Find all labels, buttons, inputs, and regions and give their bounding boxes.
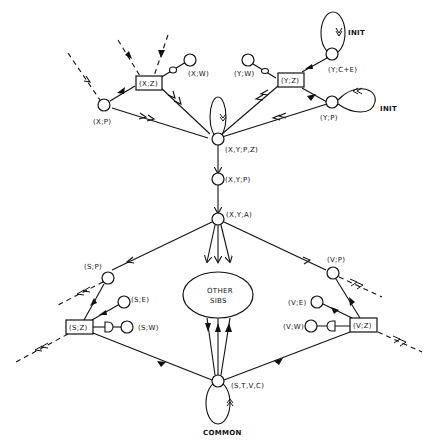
filled-arrow-icon (158, 50, 165, 58)
edge-xya-to-sibs-3 (221, 225, 230, 262)
label-other: OTHER (207, 287, 233, 295)
edge-ycpe-to-yz (302, 58, 327, 72)
double-arrow-icon (35, 343, 48, 351)
edge-xya-to-sp (112, 222, 212, 270)
label-vz: (V;Z) (353, 322, 372, 330)
node-sw (121, 321, 133, 333)
edge-xya-to-sibs-1 (207, 225, 215, 262)
double-arrow-icon (350, 279, 363, 289)
node-yp (326, 96, 338, 108)
relation-diagram: (X;P) (X;Z) (X;W) (Y;W) (Y;Z) (Y;C+E) IN… (0, 0, 434, 445)
label-yp: (Y;P) (320, 114, 338, 122)
filled-arrow-icon (205, 323, 211, 332)
dashed-edge-out-sz (16, 334, 68, 362)
node-xya (212, 213, 224, 225)
label-yw: (Y;W) (234, 70, 255, 78)
label-ve: (V;E) (288, 299, 307, 307)
loop-init-right (338, 89, 375, 112)
node-xw (184, 54, 196, 66)
label-xz: (X;Z) (139, 80, 158, 88)
edge-xp-to-xypz (112, 108, 208, 138)
node-stvc (212, 375, 224, 387)
dashed-edge-out-sp (58, 282, 103, 305)
node-sp (102, 272, 114, 284)
node-xypz (212, 133, 224, 145)
edge-yz-to-xypz (222, 86, 278, 134)
double-arrow-icon (77, 287, 90, 295)
label-xypz: (X,Y;P,Z) (225, 146, 258, 154)
dashed-edge-out-vz (378, 332, 422, 352)
label-vw: (V;W) (283, 323, 304, 331)
edge-xya-to-vp (224, 222, 326, 270)
filled-arrow-icon (99, 310, 107, 315)
filled-arrow-icon (117, 87, 125, 94)
label-ycpe: (Y;C+E) (328, 66, 357, 74)
filled-arrow-icon (157, 361, 166, 367)
inhibitor-icon (262, 69, 269, 74)
label-xp: (X;P) (93, 118, 111, 126)
node-yw (242, 54, 254, 66)
inhibitor-icon (327, 321, 335, 331)
edge-stvc-to-vz (224, 332, 350, 380)
dashed-edge-into-xz-1 (118, 40, 140, 76)
double-arrow-icon (220, 114, 226, 121)
filled-arrow-icon (225, 323, 232, 332)
node-xyp (212, 173, 224, 185)
filled-arrow-icon (215, 323, 221, 332)
dashed-edge-into-xp (68, 53, 100, 100)
label-common: COMMON (203, 429, 242, 437)
label-sz: (S;Z) (69, 324, 88, 332)
edge-xz-to-xypz (160, 87, 210, 134)
filled-arrow-icon (305, 64, 313, 69)
node-other-sibs (183, 272, 253, 318)
node-se (118, 296, 130, 308)
double-arrow-icon (256, 90, 268, 100)
inhibitor-icon (170, 67, 177, 73)
label-vp: (V;P) (327, 256, 345, 264)
label-se: (S;E) (131, 296, 149, 304)
label-sibs: SIBS (210, 297, 227, 305)
loop-common (206, 382, 230, 424)
label-init-right: INIT (380, 105, 397, 113)
inhibitor-icon (105, 322, 113, 332)
label-xyp: (X,Y;P) (225, 176, 250, 184)
node-ycpe (326, 48, 338, 60)
node-ve (311, 296, 323, 308)
edge-stvc-to-sz (93, 333, 212, 380)
label-sp: (S;P) (84, 263, 102, 271)
label-xw: (X;W) (188, 70, 209, 78)
double-arrow-icon (168, 91, 181, 104)
label-init-top: INIT (348, 29, 365, 37)
node-xp (98, 99, 110, 111)
filled-arrow-icon (331, 307, 339, 314)
label-sw: (S;W) (138, 324, 159, 332)
filled-arrow-icon (307, 94, 316, 101)
label-stvc: (S,T,V,C) (231, 382, 264, 390)
label-xya: (X,Y;A) (226, 211, 252, 219)
label-yz: (Y;Z) (281, 77, 299, 85)
double-arrow-icon (336, 28, 342, 36)
node-vw (305, 320, 317, 332)
node-vp (327, 267, 339, 279)
double-arrow-icon (393, 336, 406, 346)
